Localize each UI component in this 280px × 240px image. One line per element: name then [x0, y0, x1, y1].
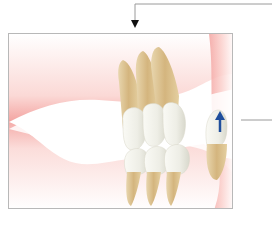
- teeth-illustration: [9, 34, 233, 209]
- down-arrow-icon: [131, 20, 139, 28]
- illustration-frame: [8, 33, 233, 209]
